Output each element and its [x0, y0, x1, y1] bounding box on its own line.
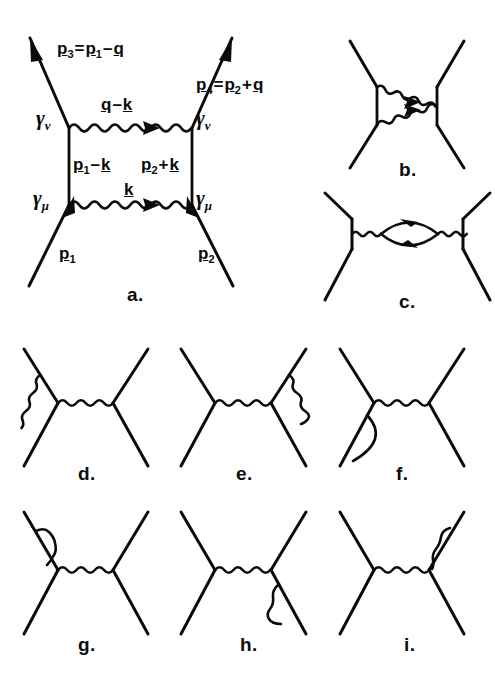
momentum-p2-symbol-2: p [141, 155, 151, 174]
momentum-q-symbol-1: q [113, 39, 123, 58]
gamma-glyph-3: γ [33, 186, 42, 210]
panel-i-leg-in-right [429, 570, 464, 634]
panel-a-label-internal-right: p2+k [141, 156, 179, 173]
momentum-k-symbol-4: k [124, 180, 133, 199]
panel-g-diagram [24, 512, 148, 634]
panel-c-leg-in-right [463, 249, 490, 300]
figure-root: p3=p1–q p4=p2+q q–k p1–k p2+k k p1 p2 γν… [0, 0, 495, 691]
panel-a-vertex-gamma-mu-right: γμ [196, 188, 212, 209]
panel-a-label-internal-left: p1–k [73, 156, 110, 173]
panel-d-leg-out-left [24, 349, 58, 403]
panel-g-leg-in-right [113, 570, 148, 634]
gamma-glyph-2: γ [196, 106, 205, 130]
panel-letter-g: g. [78, 635, 96, 654]
panel-a-vertex-gamma-mu-left: γμ [33, 188, 49, 209]
panel-letter-f: f. [396, 464, 409, 483]
panel-d-leg-in-right [113, 403, 148, 466]
panel-c-leg-out-left [325, 193, 352, 219]
momentum-p2-index-3: 2 [208, 253, 214, 265]
momentum-p1-symbol-2: p [73, 155, 83, 174]
panel-h-selfenergy-loop [268, 584, 281, 624]
momentum-p3-index: 3 [67, 48, 73, 60]
panel-c-leg-in-left [325, 249, 352, 300]
momentum-p1-index-2: 1 [83, 164, 89, 176]
panel-h-leg-out-left [181, 512, 215, 570]
panel-letter-e: e. [236, 464, 253, 483]
panel-h-diagram [181, 512, 306, 634]
momentum-p1-index-3: 1 [69, 253, 75, 265]
panel-h-leg-in-left [181, 570, 215, 634]
panel-h-photon [215, 567, 270, 573]
minus-sign-2: – [111, 95, 122, 114]
panel-f-photon [374, 400, 429, 406]
panel-b-leg-out-right [437, 41, 464, 87]
panel-d-leg-in-left [24, 403, 58, 466]
panel-b-leg-in-left [350, 125, 377, 168]
panel-a-label-photon-top: q–k [101, 96, 132, 113]
panel-b-leg-out-left [350, 41, 377, 87]
momentum-p2-symbol-3: p [198, 244, 208, 263]
plus-sign-1: + [241, 75, 253, 94]
panel-a-photon-top [69, 125, 191, 132]
panel-a-arrow-out-left [30, 38, 43, 62]
panel-a-label-out-right: p4=p2+q [196, 76, 263, 93]
panel-a-label-in-right: p2 [198, 245, 215, 262]
mu-index-2: μ [205, 198, 212, 213]
panel-e-leg-in-left [181, 403, 215, 466]
panel-d-photon [58, 400, 113, 406]
equals-sign-1: = [74, 39, 86, 58]
panel-g-leg-out-left [24, 512, 58, 570]
panel-e-leg-out-left [181, 349, 215, 403]
nu-index-1: ν [45, 118, 51, 133]
panel-letter-h: h. [240, 635, 258, 654]
panel-letter-b: b. [399, 160, 417, 179]
panel-a-label-out-left: p3=p1–q [57, 40, 124, 57]
panel-b-diagram [350, 41, 464, 168]
panel-f-diagram [340, 349, 464, 466]
panel-e-vertex-loop [289, 375, 309, 424]
momentum-p1-symbol-3: p [59, 244, 69, 263]
feynman-diagram-canvas [0, 0, 495, 691]
panel-c-diagram [325, 193, 490, 300]
panel-b-leg-in-right [437, 125, 464, 168]
panel-c-photon-left [352, 232, 381, 237]
minus-sign-1: – [102, 39, 113, 58]
panel-a-arrow-photon-top [143, 121, 160, 135]
panel-a-photon-bottom [69, 202, 191, 209]
panel-e-diagram [181, 349, 309, 466]
panel-f-leg-in-left [340, 403, 374, 466]
momentum-p2-index: 2 [235, 84, 241, 96]
momentum-p1-symbol: p [85, 39, 95, 58]
momentum-p4-symbol: p [196, 75, 206, 94]
panel-a-arrow-out-right [219, 38, 232, 62]
momentum-p3-symbol: p [57, 39, 67, 58]
panel-g-photon [58, 567, 113, 573]
panel-i-leg-in-left [340, 570, 374, 634]
panel-letter-d: d. [78, 464, 96, 483]
momentum-p2-index-2: 2 [151, 164, 157, 176]
panel-e-leg-in-right [271, 403, 306, 466]
gamma-glyph-1: γ [36, 106, 45, 130]
minus-sign-3: – [90, 155, 101, 174]
panel-f-leg-in-right [429, 403, 464, 466]
momentum-q-symbol-2: q [253, 75, 263, 94]
panel-letter-i: i. [404, 635, 416, 654]
panel-i-diagram [340, 512, 464, 634]
momentum-k-symbol-1: k [123, 95, 132, 114]
panel-g-leg-out-right [113, 512, 148, 570]
panel-g-leg-in-left [24, 570, 58, 634]
plus-sign-2: + [158, 155, 170, 174]
panel-a-vertex-gamma-nu-left: γν [36, 108, 51, 129]
panel-a-vertex-gamma-nu-right: γν [196, 108, 211, 129]
panel-i-photon [374, 567, 429, 573]
panel-letter-a: a. [127, 285, 144, 304]
panel-f-leg-out-right [429, 349, 464, 403]
momentum-k-symbol-2: k [101, 155, 110, 174]
panel-a-label-in-left: p1 [59, 245, 76, 262]
panel-a-label-photon-bottom: k [124, 181, 133, 198]
panel-d-leg-out-right [113, 349, 148, 403]
equals-sign-2: = [213, 75, 225, 94]
momentum-p1-index: 1 [96, 48, 102, 60]
panel-i-leg-out-left [340, 512, 374, 570]
panel-c-leg-out-right [463, 193, 490, 219]
